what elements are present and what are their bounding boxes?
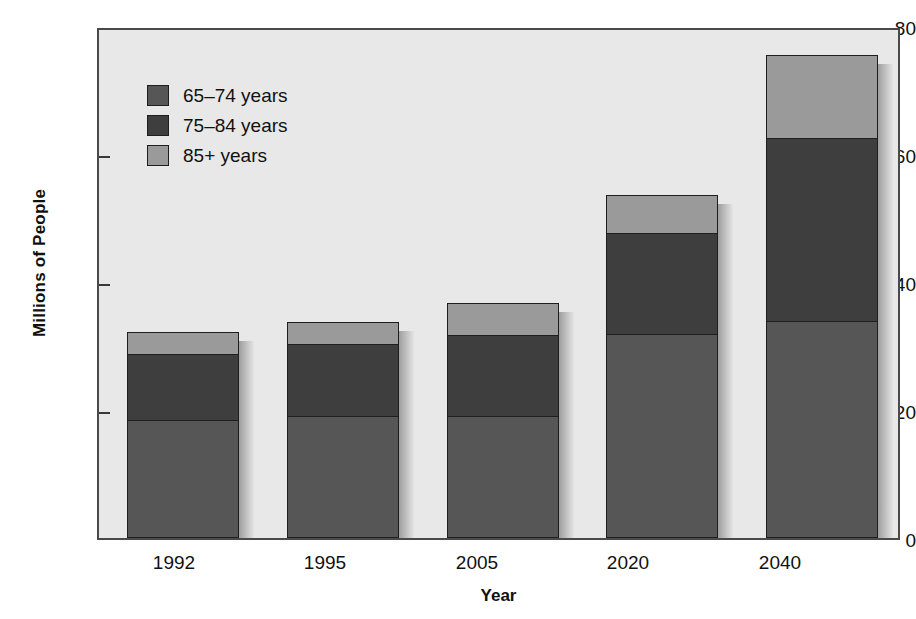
bar-group[interactable] xyxy=(447,303,559,538)
legend: 65–74 years 75–84 years 85+ years xyxy=(147,82,288,172)
bar-shadow xyxy=(716,204,733,538)
y-axis-title: Millions of People xyxy=(30,163,50,363)
bar-segment-85plus xyxy=(128,333,238,355)
bar-segment-65-74 xyxy=(288,417,398,537)
bar-shadow xyxy=(876,64,893,538)
legend-item: 65–74 years xyxy=(147,82,288,109)
bar-segment-65-74 xyxy=(607,335,717,537)
bar-stack xyxy=(766,55,878,538)
legend-swatch-icon xyxy=(147,85,169,106)
bar-segment-85plus xyxy=(448,304,558,335)
x-axis-tick-label: 1992 xyxy=(94,552,254,574)
x-axis-tick-label: 2040 xyxy=(700,552,860,574)
bar-stack xyxy=(606,195,718,538)
bar-group[interactable] xyxy=(766,55,878,538)
plot-area: 65–74 years 75–84 years 85+ years xyxy=(97,28,900,540)
bar-shadow xyxy=(397,331,414,538)
legend-item-label: 75–84 years xyxy=(183,115,288,137)
bar-segment-65-74 xyxy=(767,322,877,537)
x-axis-title: Year xyxy=(97,586,900,606)
bar-segment-85plus xyxy=(288,323,398,345)
bar-group[interactable] xyxy=(287,322,399,538)
bar-segment-65-74 xyxy=(448,417,558,537)
legend-item-label: 85+ years xyxy=(183,145,267,167)
legend-swatch-icon xyxy=(147,115,169,136)
x-axis-tick-label: 2005 xyxy=(397,552,557,574)
bar-segment-75-84 xyxy=(607,234,717,335)
bar-segment-75-84 xyxy=(128,355,238,421)
bar-shadow xyxy=(237,341,254,538)
bar-stack xyxy=(447,303,559,538)
stacked-bar-chart-figure: Millions of People 80 60 40 20 0 65–74 y… xyxy=(0,0,916,619)
legend-item: 75–84 years xyxy=(147,112,288,139)
bar-segment-75-84 xyxy=(767,139,877,322)
bar-shadow xyxy=(557,312,574,538)
bar-segment-75-84 xyxy=(288,345,398,417)
legend-swatch-icon xyxy=(147,145,169,166)
bar-group[interactable] xyxy=(127,332,239,538)
x-axis-tick-label: 1995 xyxy=(245,552,405,574)
x-axis-tick-label: 2020 xyxy=(548,552,708,574)
bar-stack xyxy=(287,322,399,538)
bar-stack xyxy=(127,332,239,538)
legend-item: 85+ years xyxy=(147,142,288,169)
bar-segment-65-74 xyxy=(128,421,238,537)
bar-segment-85plus xyxy=(607,196,717,234)
legend-item-label: 65–74 years xyxy=(183,85,288,107)
bar-segment-75-84 xyxy=(448,336,558,418)
bar-segment-85plus xyxy=(767,56,877,138)
bar-group[interactable] xyxy=(606,195,718,538)
